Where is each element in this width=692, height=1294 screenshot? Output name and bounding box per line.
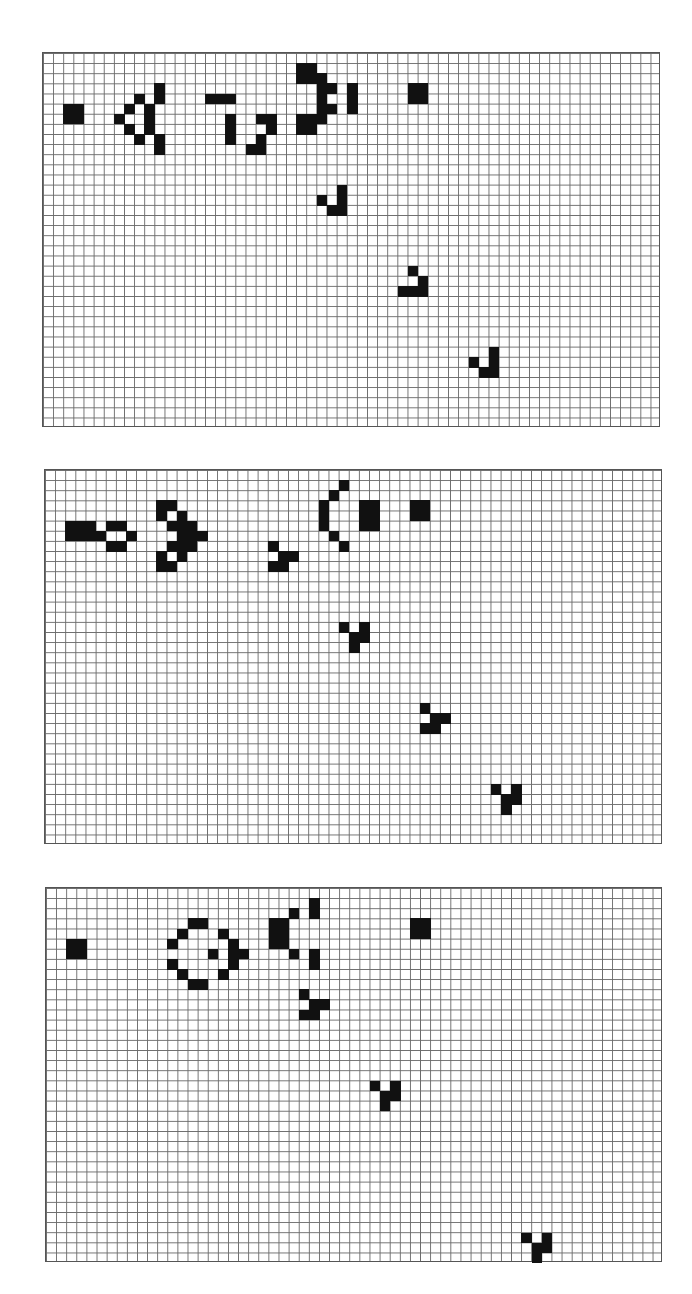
live-cell: [410, 918, 421, 929]
live-cell: [296, 73, 307, 84]
live-cell: [327, 205, 338, 216]
live-cell: [116, 541, 127, 552]
live-cell: [532, 1243, 543, 1254]
live-cell: [177, 551, 188, 562]
live-cell: [73, 104, 84, 115]
live-cell: [177, 511, 188, 522]
live-cell: [154, 134, 165, 145]
live-cell: [278, 551, 289, 562]
live-cell: [390, 1091, 401, 1102]
live-cell: [420, 703, 431, 714]
live-cell: [339, 622, 350, 633]
live-cell: [134, 134, 145, 145]
live-cell: [319, 999, 330, 1010]
live-cell: [339, 541, 350, 552]
live-cell: [279, 929, 290, 940]
live-cell: [289, 949, 300, 960]
live-cell: [309, 908, 320, 919]
live-cell: [408, 83, 419, 94]
live-cell: [337, 185, 348, 196]
live-cell: [63, 114, 74, 125]
live-cell: [246, 144, 257, 155]
live-cell: [106, 541, 117, 552]
live-cell: [126, 531, 137, 542]
live-cell: [76, 949, 87, 960]
live-cell: [75, 521, 86, 532]
live-cell: [279, 918, 290, 929]
live-cell: [269, 929, 280, 940]
live-cell: [177, 929, 188, 940]
live-cell: [418, 83, 429, 94]
live-cell: [489, 357, 500, 368]
live-cell: [369, 500, 380, 511]
live-cell: [306, 73, 317, 84]
live-cell: [177, 969, 188, 980]
live-cell: [339, 480, 350, 491]
live-cell: [124, 124, 135, 135]
live-cell: [66, 949, 77, 960]
live-cell: [430, 723, 441, 734]
live-cell: [256, 114, 267, 125]
live-cell: [86, 531, 97, 542]
live-cell: [359, 632, 370, 643]
live-cell: [225, 134, 236, 145]
live-cell: [410, 511, 421, 522]
live-cell: [198, 979, 209, 990]
live-cell: [408, 94, 419, 105]
live-cell: [167, 561, 178, 572]
live-cell: [96, 531, 107, 542]
live-cell: [521, 1233, 532, 1244]
live-cell: [187, 541, 198, 552]
live-cell: [144, 104, 155, 115]
live-cell: [359, 500, 370, 511]
live-cell: [327, 83, 338, 94]
live-cell: [306, 63, 317, 74]
live-cell: [359, 511, 370, 522]
live-cell: [114, 114, 125, 125]
live-cell: [479, 367, 490, 378]
live-cell: [501, 794, 512, 805]
live-cell: [511, 794, 522, 805]
live-cell: [511, 784, 522, 795]
live-cell: [349, 642, 360, 653]
live-cell: [73, 114, 84, 125]
live-cell: [197, 531, 208, 542]
live-cell: [420, 723, 431, 734]
live-cell: [156, 551, 167, 562]
live-cell: [269, 939, 280, 950]
live-cell: [225, 124, 236, 135]
live-cell: [278, 561, 289, 572]
live-cell: [187, 531, 198, 542]
live-cell: [390, 1081, 401, 1092]
live-cell: [408, 286, 419, 297]
live-cell: [296, 124, 307, 135]
live-cell: [369, 521, 380, 532]
live-cell: [256, 144, 267, 155]
live-cell: [418, 276, 429, 287]
live-cell: [347, 94, 358, 105]
live-cell: [317, 94, 328, 105]
live-cell: [177, 541, 188, 552]
live-cell: [491, 784, 502, 795]
live-cell: [269, 918, 280, 929]
live-cell: [359, 521, 370, 532]
live-cell: [410, 500, 421, 511]
live-cell: [337, 195, 348, 206]
live-cell: [309, 959, 320, 970]
live-cell: [63, 104, 74, 115]
live-cell: [225, 114, 236, 125]
live-cell: [167, 521, 178, 532]
live-cell: [370, 1081, 381, 1092]
live-cell: [268, 561, 279, 572]
live-cell: [418, 286, 429, 297]
live-cell: [167, 939, 178, 950]
live-cell: [188, 979, 199, 990]
live-cell: [167, 500, 178, 511]
live-cell: [489, 367, 500, 378]
live-cell: [65, 531, 76, 542]
live-cell: [218, 969, 229, 980]
live-cell: [306, 114, 317, 125]
live-cell: [420, 918, 431, 929]
live-cell: [299, 1010, 310, 1021]
live-cell: [319, 511, 330, 522]
